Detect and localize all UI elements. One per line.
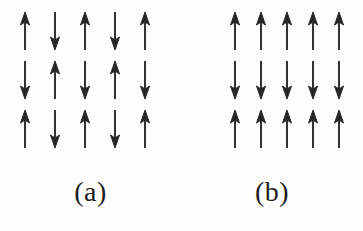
spin-up-arrow-icon <box>74 108 96 150</box>
panel-a: (a) <box>0 0 181 231</box>
spin-down-arrow-icon <box>134 59 156 101</box>
spin-up-arrow-icon <box>302 108 324 150</box>
spin-up-arrow-icon <box>328 10 350 52</box>
spin-down-arrow-icon <box>14 59 36 101</box>
spin-down-arrow-icon <box>104 108 126 150</box>
spin-down-arrow-icon <box>250 59 272 101</box>
spin-up-arrow-icon <box>14 108 36 150</box>
spin-down-arrow-icon <box>302 59 324 101</box>
spin-up-arrow-icon <box>250 10 272 52</box>
spin-up-arrow-icon <box>224 108 246 150</box>
spin-up-arrow-icon <box>104 59 126 101</box>
spin-up-arrow-icon <box>276 108 298 150</box>
spin-down-arrow-icon <box>74 59 96 101</box>
spin-down-arrow-icon <box>44 108 66 150</box>
spin-up-arrow-icon <box>250 108 272 150</box>
spin-down-arrow-icon <box>44 10 66 52</box>
spin-configuration-figure: (a) (b) <box>0 0 363 231</box>
spin-up-arrow-icon <box>328 108 350 150</box>
spin-up-arrow-icon <box>134 108 156 150</box>
spin-down-arrow-icon <box>276 59 298 101</box>
spin-down-arrow-icon <box>104 10 126 52</box>
spin-down-arrow-icon <box>224 59 246 101</box>
panel-a-label: (a) <box>0 176 181 208</box>
spin-up-arrow-icon <box>14 10 36 52</box>
panel-b-label: (b) <box>181 176 363 208</box>
spin-down-arrow-icon <box>328 59 350 101</box>
panel-b: (b) <box>181 0 363 231</box>
spin-up-arrow-icon <box>302 10 324 52</box>
spin-up-arrow-icon <box>74 10 96 52</box>
spin-up-arrow-icon <box>224 10 246 52</box>
spin-up-arrow-icon <box>44 59 66 101</box>
spin-up-arrow-icon <box>276 10 298 52</box>
spin-up-arrow-icon <box>134 10 156 52</box>
